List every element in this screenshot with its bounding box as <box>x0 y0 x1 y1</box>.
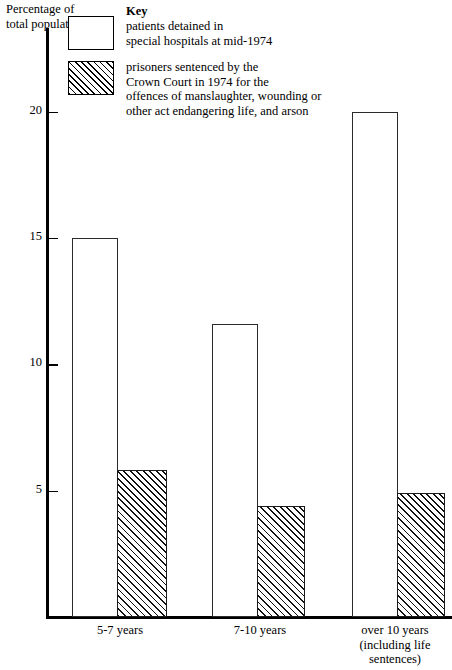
bar-patients-5-7-years <box>72 238 118 617</box>
bar-patients-7-10-years <box>212 324 258 617</box>
y-tick-mark-20 <box>49 112 58 114</box>
y-axis-line <box>46 28 49 619</box>
y-tick-mark-10 <box>49 364 58 366</box>
y-tick-mark-15 <box>49 238 58 240</box>
bar-patients-over-10-years <box>352 112 398 617</box>
x-axis-label-over-10-years: over 10 years (including life sentences) <box>338 623 452 667</box>
x-axis-label-5-7-years: 5-7 years <box>60 623 180 638</box>
chart-plot-area: 20 15 10 5 5-7 years 7-10 years over 10 … <box>0 0 452 670</box>
bar-prisoners-7-10-years <box>257 506 305 617</box>
y-tick-label-5: 5 <box>18 483 42 496</box>
y-tick-label-10: 10 <box>18 356 42 369</box>
y-tick-label-15: 15 <box>18 230 42 243</box>
y-tick-label-20: 20 <box>18 104 42 117</box>
y-tick-mark-5 <box>49 491 58 493</box>
bar-prisoners-5-7-years <box>117 470 167 617</box>
bar-prisoners-over-10-years <box>397 493 445 617</box>
x-axis-label-7-10-years: 7-10 years <box>200 623 320 638</box>
